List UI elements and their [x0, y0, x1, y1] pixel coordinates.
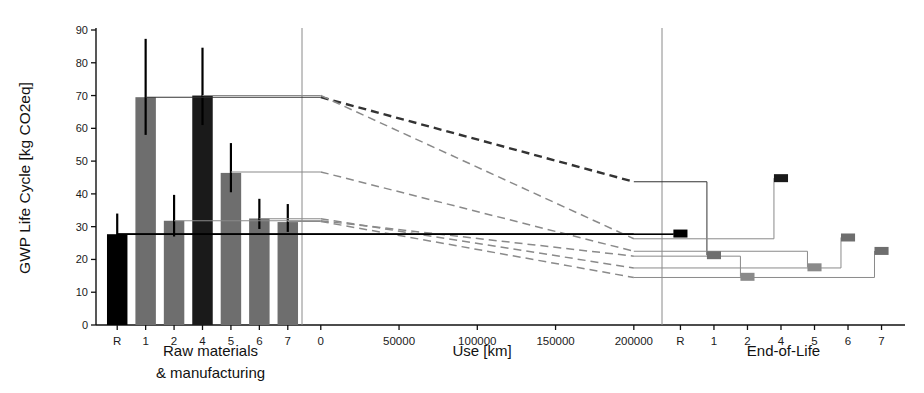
eol-marker-2[interactable]	[740, 273, 754, 281]
use-line-4	[321, 96, 634, 239]
x-tick-label-R: R	[113, 335, 121, 347]
y-tick-label: 50	[76, 155, 88, 167]
y-tick-label: 70	[76, 90, 88, 102]
x-tick-label-use-150000: 150000	[536, 335, 574, 347]
x-tick-label-eol-1: 1	[711, 335, 717, 347]
gwp-life-cycle-figure: 0102030405060708090GWP Life Cycle [kg CO…	[0, 0, 924, 393]
panel1-axis-title-line2: & manufacturing	[156, 364, 265, 381]
y-tick-label: 60	[76, 122, 88, 134]
use-line-2	[321, 221, 634, 256]
x-tick-label-eol-R: R	[676, 335, 684, 347]
eol-marker-R[interactable]	[673, 230, 687, 238]
x-tick-label-eol-6: 6	[845, 335, 851, 347]
y-tick-label: 0	[82, 319, 88, 331]
eol-marker-5[interactable]	[807, 263, 821, 271]
x-tick-label-use-200000: 200000	[615, 335, 653, 347]
chart-canvas: 0102030405060708090GWP Life Cycle [kg CO…	[0, 0, 924, 393]
x-tick-label-use-0: 0	[318, 335, 324, 347]
use-line-1	[321, 97, 634, 182]
x-tick-label-eol-7: 7	[878, 335, 884, 347]
bar-7[interactable]	[278, 222, 298, 325]
eol-marker-7[interactable]	[874, 247, 888, 255]
panel1-axis-title-line1: Raw materials	[163, 342, 258, 359]
y-tick-label: 30	[76, 221, 88, 233]
x-tick-label-use-50000: 50000	[383, 335, 415, 347]
eol-marker-1[interactable]	[707, 251, 721, 259]
eol-marker-6[interactable]	[841, 233, 855, 241]
use-line-7	[321, 221, 634, 277]
use-line-6	[321, 219, 634, 268]
y-tick-label: 20	[76, 253, 88, 265]
y-tick-label: 80	[76, 57, 88, 69]
y-tick-label: 90	[76, 24, 88, 36]
bar-5[interactable]	[221, 173, 241, 325]
eol-marker-4[interactable]	[774, 174, 788, 182]
x-tick-label-1: 1	[142, 335, 148, 347]
use-line-5	[321, 172, 634, 251]
panel3-axis-title: End-of-Life	[747, 342, 820, 359]
y-tick-label: 40	[76, 188, 88, 200]
y-axis-title: GWP Life Cycle [kg CO2eq]	[16, 82, 33, 274]
y-tick-label: 10	[76, 286, 88, 298]
bar-4[interactable]	[192, 96, 212, 325]
x-tick-label-7: 7	[285, 335, 291, 347]
panel2-axis-title: Use [km]	[452, 342, 511, 359]
